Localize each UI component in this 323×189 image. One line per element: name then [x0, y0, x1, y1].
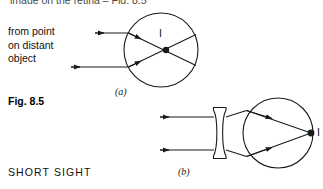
diverged-ray-b-top	[226, 111, 247, 118]
eyeball-a	[124, 13, 198, 87]
diverged-ray-b-bottom	[226, 150, 247, 157]
refracted-ray-b-bottom	[247, 133, 312, 157]
section-heading-short-sight: SHORT SIGHT	[8, 166, 91, 178]
concave-lens-b	[214, 108, 227, 159]
ray-source-label-line-2: on distant	[8, 39, 55, 53]
image-point-label-a: I	[159, 27, 162, 39]
panel-a-group	[71, 13, 198, 87]
image-point-label-b: I	[317, 126, 320, 138]
panel-b-group	[160, 98, 314, 168]
ray-source-label-line-3: object	[8, 52, 55, 66]
refracted-ray-a-bottom	[129, 35, 197, 68]
image-point-a	[163, 47, 169, 53]
panel-caption-a: (a)	[115, 86, 127, 97]
figure-page: image on the retina – Fig. 8.5	[0, 0, 323, 189]
ray-source-label-line-1: from point	[8, 25, 55, 39]
eyeball-b	[243, 98, 313, 168]
panel-caption-b: (b)	[178, 166, 190, 177]
figure-number-label: Fig. 8.5	[8, 95, 44, 107]
refracted-ray-b-top	[247, 111, 312, 134]
image-point-b	[308, 130, 315, 137]
refracted-ray-a-top	[129, 33, 197, 66]
ray-source-label: from point on distant object	[8, 25, 55, 66]
